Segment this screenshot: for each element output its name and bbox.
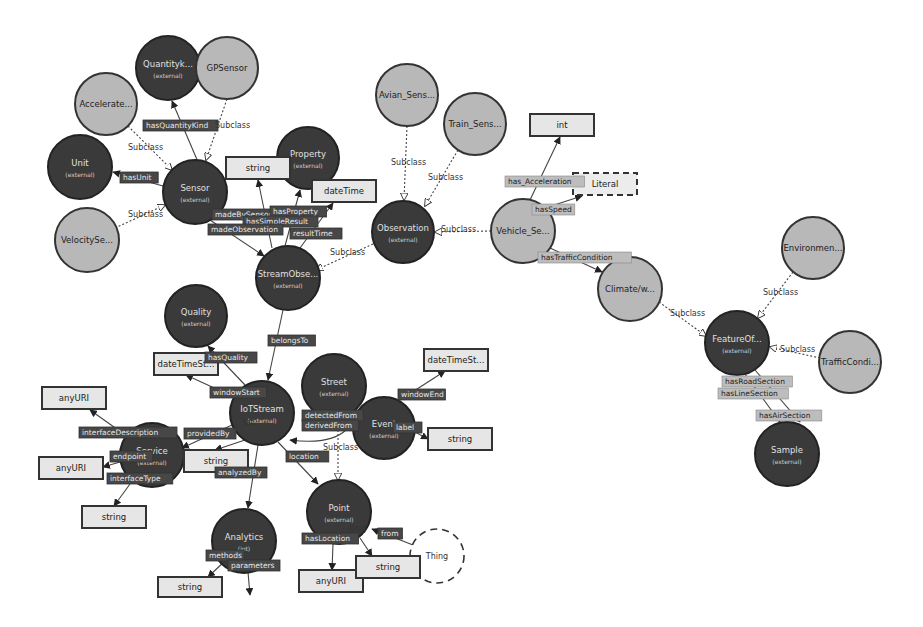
edge-interfacetype[interactable] <box>114 484 130 506</box>
datatype-box-dt_string_event[interactable]: string <box>428 428 492 450</box>
edge-label[interactable]: resultTime <box>290 228 342 239</box>
edge-label[interactable]: hasQuality <box>205 352 257 363</box>
class-node-climate[interactable]: Climate/w... <box>598 257 662 321</box>
edge-label[interactable]: from <box>378 528 402 539</box>
class-node-train[interactable]: Train_Sens... <box>444 93 506 155</box>
edge-label[interactable]: windowStart <box>210 387 267 398</box>
edge-label[interactable]: Subclass <box>428 173 463 182</box>
edge-label-text: Subclass <box>670 309 705 318</box>
edge-label[interactable]: hasLineSection <box>718 388 788 399</box>
ontology-graph-canvas[interactable]: Quantityk...(external)GPSensorAccelerate… <box>0 0 923 627</box>
node-label: Street <box>321 377 347 387</box>
edge-label-text: parameters <box>231 561 275 570</box>
class-node-trafficcond[interactable]: TrafficCondi... <box>819 331 881 393</box>
edge-label-text: Subclass <box>763 288 798 297</box>
edge-label[interactable]: label <box>393 422 422 433</box>
class-node-featureof[interactable]: FeatureOf...(external) <box>705 311 769 375</box>
node-sublabel: (external) <box>181 320 210 327</box>
edge-hasquantitykind[interactable] <box>172 101 198 162</box>
node-label: Unit <box>71 158 89 168</box>
class-node-streamobs[interactable]: StreamObse...(external) <box>256 246 320 310</box>
edge-label[interactable]: hasUnit <box>120 172 158 183</box>
edge-label[interactable]: has_Acceleration <box>505 176 585 187</box>
edge-label[interactable]: endpoint <box>110 451 153 462</box>
edge-label[interactable]: Subclass <box>780 345 815 354</box>
edge-label-text: windowStart <box>213 388 260 397</box>
edge-label[interactable]: Subclass <box>670 309 705 318</box>
edge-label-text: Subclass <box>391 158 426 167</box>
class-node-sample[interactable]: Sample(external) <box>755 422 819 486</box>
edge-label[interactable]: hasTrafficCondition <box>538 252 631 263</box>
node-sublabel: (external) <box>722 347 751 354</box>
edge-label-text: interfaceDescription <box>82 428 158 437</box>
edge-label[interactable]: Subclass <box>215 121 250 130</box>
edge-lat[interactable] <box>215 440 245 450</box>
edge-label[interactable]: hasAirSection <box>756 410 822 421</box>
class-node-accelerate[interactable]: Accelerate... <box>75 73 137 135</box>
class-node-velocityse[interactable]: VelocitySe... <box>55 208 119 272</box>
edge-label[interactable]: Subclass <box>391 158 426 167</box>
node-label: Accelerate... <box>79 99 132 109</box>
edge-label[interactable]: detectedFrom <box>302 410 363 421</box>
edge-label[interactable]: parameters <box>228 560 280 571</box>
edge-long[interactable] <box>360 538 372 556</box>
edge-label[interactable]: providedBy <box>184 428 236 439</box>
datatype-box-dt_anyuri1[interactable]: anyURI <box>42 387 106 409</box>
class-node-avian[interactable]: Avian_Sens... <box>376 64 438 126</box>
datatype-box-dt_string_point[interactable]: string <box>356 556 420 578</box>
edge-label[interactable]: hasRoadSection <box>722 376 792 387</box>
edge-label[interactable]: Subclass <box>441 225 476 234</box>
edge-label[interactable]: Subclass <box>330 248 365 257</box>
edge-label-text: detectedFrom <box>305 411 357 420</box>
edge-endpoint[interactable] <box>103 462 120 467</box>
edge-label-text: hasSpeed <box>535 205 572 214</box>
edge-haslocation[interactable] <box>332 544 333 570</box>
class-node-gpsensor[interactable]: GPSensor <box>196 37 258 99</box>
datatype-box-dt_string_analytics[interactable]: string <box>158 577 222 597</box>
class-node-quality[interactable]: Quality(external) <box>165 285 227 347</box>
class-node-unit[interactable]: Unit(external) <box>48 135 112 199</box>
edge-label[interactable]: hasLocation <box>302 533 359 544</box>
edge-location[interactable] <box>278 442 318 484</box>
edge-label[interactable]: Subclass <box>763 288 798 297</box>
datatype-box-dt_string_iface[interactable]: string <box>82 506 146 528</box>
node-label: Quality <box>181 307 211 317</box>
edge-label[interactable]: madeObservation <box>208 224 283 235</box>
edge-parameters[interactable] <box>248 572 250 595</box>
edge-label[interactable]: belongsTo <box>268 335 315 346</box>
datatype-label: dateTimeSt... <box>428 355 485 365</box>
edge-label[interactable]: hasQuantityKind <box>143 120 218 131</box>
datatype-label: int <box>556 120 568 130</box>
datatype-label: anyURI <box>59 393 89 403</box>
edge-label[interactable]: Subclass <box>128 210 163 219</box>
class-node-street[interactable]: Street(external) <box>302 354 366 418</box>
edge-label[interactable]: analyzedBy <box>215 467 267 478</box>
datatype-box-dt_int[interactable]: int <box>530 114 594 136</box>
datatype-box-dt_anyuri3[interactable]: anyURI <box>299 570 363 592</box>
edge-label-text: Subclass <box>128 210 163 219</box>
edge-label[interactable]: interfaceDescription <box>79 427 177 438</box>
edge-label[interactable]: derivedFrom <box>302 420 359 431</box>
edge-subclass[interactable] <box>659 302 706 336</box>
class-node-quantity[interactable]: Quantityk...(external) <box>136 36 200 100</box>
edge-label[interactable]: interfaceType <box>107 473 173 484</box>
edge-has-acceleration[interactable] <box>530 137 560 200</box>
node-sublabel: (external) <box>388 236 417 243</box>
class-node-observation[interactable]: Observation(external) <box>372 201 434 263</box>
edge-label[interactable]: windowEnd <box>398 389 445 400</box>
datatype-box-dt_datetimest2[interactable]: dateTimeSt... <box>424 349 488 371</box>
edge-label-text: hasQuality <box>208 353 249 362</box>
edge-label-text: lat <box>243 418 253 427</box>
datatype-box-dt_string1[interactable]: string <box>226 157 290 179</box>
datatype-box-dt_anyuri2[interactable]: anyURI <box>39 457 103 479</box>
edge-label[interactable]: hasProperty <box>270 206 327 217</box>
edge-label[interactable]: location <box>286 451 329 462</box>
edge-label[interactable]: methods <box>206 550 244 561</box>
class-node-environment[interactable]: Environmen... <box>782 217 844 279</box>
datatype-box-dt_datetime1[interactable]: dateTime <box>312 180 376 202</box>
node-label: Vehicle_Se... <box>496 226 549 236</box>
edge-label[interactable]: lat <box>243 418 253 427</box>
edge-label[interactable]: hasSpeed <box>532 204 575 215</box>
edge-label[interactable]: long <box>349 524 366 533</box>
edge-label[interactable]: Subclass <box>128 143 163 152</box>
